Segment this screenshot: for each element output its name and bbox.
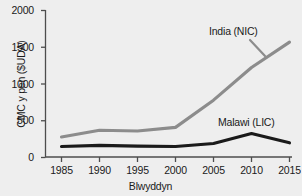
y-axis-title: CMC y pen ($UDA): [15, 9, 27, 159]
x-axis-title: Blwyddyn: [0, 180, 301, 192]
x-tick-label-1990: 1990: [83, 164, 117, 176]
x-tick-label-1985: 1985: [45, 164, 79, 176]
series-label-india: India (NIC): [209, 25, 258, 37]
x-tick-label-2010: 2010: [235, 164, 269, 176]
series-line-malawi: [62, 134, 290, 147]
x-tick-label-2000: 2000: [159, 164, 193, 176]
y-axis-ticks: [41, 11, 46, 158]
x-axis-ticks: [62, 157, 290, 162]
chart-container: 2000 1500 1000 500 0 1985 1990 1995 2000…: [0, 0, 301, 196]
india-label-leader-line: [250, 40, 265, 56]
series-label-malawi: Malawi (LIC): [218, 116, 275, 128]
x-tick-label-1995: 1995: [121, 164, 155, 176]
x-tick-label-2015: 2015: [273, 164, 302, 176]
x-tick-label-2005: 2005: [197, 164, 231, 176]
